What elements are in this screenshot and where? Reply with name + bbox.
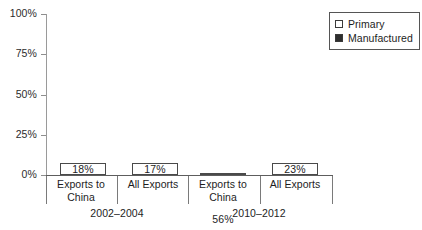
- legend-label-manufactured: Manufactured: [348, 32, 413, 44]
- legend-swatch-manufactured-icon: [335, 34, 343, 42]
- bar-group2-all-exports[interactable]: 23% 77%: [272, 163, 318, 177]
- legend-item-manufactured[interactable]: Manufactured: [335, 31, 413, 45]
- category-label-line1: Exports to: [46, 178, 116, 191]
- bar-segment-primary[interactable]: 18%: [61, 164, 105, 175]
- category-label-group1-all-exports: All Exports: [118, 176, 188, 204]
- group-label-2010-2012: 2010–2012: [188, 204, 330, 226]
- category-label-line2: China: [188, 191, 258, 204]
- category-separator: [46, 176, 47, 204]
- legend-item-primary[interactable]: Primary: [335, 17, 413, 31]
- category-label-line1: Exports to: [188, 178, 258, 191]
- chart-legend: Primary Manufactured: [329, 12, 420, 50]
- bar-group1-exports-to-china[interactable]: 18% 82%: [60, 163, 106, 177]
- bar-group1-all-exports[interactable]: 17% 83%: [132, 163, 178, 177]
- category-label-band: Exports to China All Exports Exports to …: [46, 176, 333, 204]
- category-label-line1: All Exports: [260, 178, 330, 191]
- legend-label-primary: Primary: [348, 18, 385, 30]
- bar-segment-primary[interactable]: 23%: [273, 164, 317, 175]
- category-separator: [117, 176, 118, 204]
- chart-screenshot: 100% 75% 50% 25% 0% 18% 82%: [0, 0, 422, 230]
- plot-area: 18% 82% 17% 83% 56% 44% 23%: [46, 14, 332, 176]
- category-label-group1-exports-to-china: Exports to China: [46, 176, 116, 204]
- bar-segment-primary-label: 17%: [144, 164, 165, 175]
- y-tick-label-0: 0%: [22, 168, 37, 180]
- category-separator: [260, 176, 261, 204]
- category-label-line1: All Exports: [118, 178, 188, 191]
- y-tick-label-50: 50%: [16, 88, 37, 100]
- legend-swatch-primary-icon: [335, 20, 343, 28]
- y-tick-label-75: 75%: [16, 47, 37, 59]
- group-label-band: 2002–2004 2010–2012: [46, 204, 333, 226]
- category-label-group2-exports-to-china: Exports to China: [188, 176, 258, 204]
- category-separator: [188, 176, 189, 204]
- category-label-line2: China: [46, 191, 116, 204]
- bar-segment-primary-label: 23%: [284, 164, 305, 175]
- category-band-right-edge: [332, 176, 333, 204]
- group-label-2002-2004: 2002–2004: [46, 204, 188, 226]
- y-tick-label-100: 100%: [10, 7, 37, 19]
- bar-segment-primary-label: 18%: [72, 164, 93, 175]
- category-label-group2-all-exports: All Exports: [260, 176, 330, 204]
- bar-segment-primary[interactable]: 17%: [133, 164, 177, 175]
- y-tick-label-25: 25%: [16, 128, 37, 140]
